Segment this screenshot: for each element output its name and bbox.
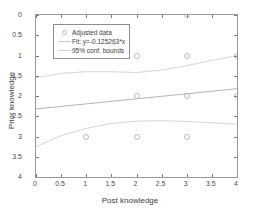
data-point-marker	[134, 53, 140, 59]
y-tick-label: 0.5	[12, 31, 22, 38]
y-tick-mark	[234, 56, 237, 57]
x-tick-label: 2.5	[156, 180, 166, 187]
x-tick-label: 0.5	[55, 180, 65, 187]
x-tick-mark	[137, 15, 138, 18]
legend-label: Fit: y=-0.125263*x	[72, 38, 125, 45]
x-tick-mark	[212, 15, 213, 18]
x-tick-mark	[61, 15, 62, 18]
y-tick-mark	[234, 137, 237, 138]
y-tick-label: 3.5	[12, 152, 22, 159]
data-point-marker	[184, 93, 190, 99]
legend-item-adjusted-data[interactable]: Adjusted data	[57, 28, 125, 37]
x-tick-mark	[61, 174, 62, 177]
y-tick-mark	[36, 96, 39, 97]
data-point-marker	[134, 93, 140, 99]
data-point-marker	[184, 53, 190, 59]
x-tick-mark	[162, 174, 163, 177]
x-tick-mark	[86, 174, 87, 177]
legend-label: Adjusted data	[72, 29, 112, 36]
x-tick-mark	[187, 15, 188, 18]
legend-label: 95% conf. bounds	[72, 47, 124, 54]
chart-legend[interactable]: Adjusted data Fit: y=-0.125263*x 95% con…	[53, 24, 130, 59]
x-tick-mark	[187, 174, 188, 177]
y-tick-mark	[234, 116, 237, 117]
legend-line-icon	[57, 41, 72, 42]
y-tick-label: 2.5	[12, 112, 22, 119]
x-tick-mark	[86, 15, 87, 18]
y-tick-mark	[234, 157, 237, 158]
x-tick-label: 2	[134, 180, 138, 187]
x-tick-label: 1	[83, 180, 87, 187]
y-tick-label: 2	[18, 92, 22, 99]
figure-container: Prior knowledge 00.511.522.533.54 00.511…	[0, 0, 260, 218]
y-tick-mark	[36, 137, 39, 138]
y-tick-mark	[234, 177, 237, 178]
x-tick-label: 0	[33, 180, 37, 187]
legend-marker-icon	[57, 30, 72, 35]
y-tick-mark	[36, 157, 39, 158]
y-axis-title: Prior knowledge	[7, 46, 16, 156]
x-tick-label: 3	[184, 180, 188, 187]
x-tick-mark	[237, 15, 238, 18]
y-tick-mark	[36, 177, 39, 178]
y-tick-mark	[234, 96, 237, 97]
x-tick-mark	[111, 174, 112, 177]
legend-item-conf-bounds[interactable]: 95% conf. bounds	[57, 46, 125, 55]
y-tick-mark	[36, 116, 39, 117]
y-tick-mark	[36, 56, 39, 57]
legend-item-fit[interactable]: Fit: y=-0.125263*x	[57, 37, 125, 46]
x-tick-label: 3.5	[206, 180, 216, 187]
legend-dashed-line-icon	[57, 50, 72, 51]
x-tick-label: 4	[234, 180, 238, 187]
y-tick-mark	[36, 35, 39, 36]
y-tick-label: 4	[18, 173, 22, 180]
data-point-marker	[184, 134, 190, 140]
plot-area: Adjusted data Fit: y=-0.125263*x 95% con…	[35, 14, 238, 178]
y-tick-mark	[36, 76, 39, 77]
x-tick-mark	[162, 15, 163, 18]
y-tick-label: 1	[18, 51, 22, 58]
x-axis-title: Post knowledge	[0, 196, 260, 205]
y-tick-label: 1.5	[12, 71, 22, 78]
x-tick-mark	[237, 174, 238, 177]
x-tick-mark	[36, 174, 37, 177]
x-tick-mark	[137, 174, 138, 177]
y-tick-mark	[234, 35, 237, 36]
y-tick-label: 3	[18, 132, 22, 139]
y-tick-mark	[234, 76, 237, 77]
data-point-marker	[134, 134, 140, 140]
x-tick-mark	[111, 15, 112, 18]
data-point-marker	[83, 134, 89, 140]
x-tick-label: 1.5	[106, 180, 116, 187]
y-tick-label: 0	[18, 11, 22, 18]
x-tick-mark	[212, 174, 213, 177]
x-tick-mark	[36, 15, 37, 18]
